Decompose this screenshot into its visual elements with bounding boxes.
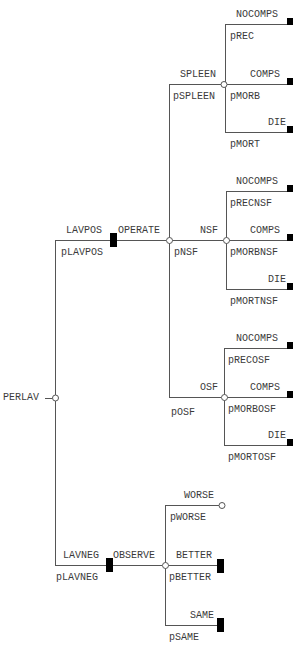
outcome-prob-label: pREC <box>230 31 254 42</box>
root-label: PERLAV <box>3 392 39 403</box>
perlav-chance-node-icon[interactable] <box>53 395 59 401</box>
spleen-prob-label: pSPLEEN <box>173 91 215 102</box>
worse-chance-node-icon[interactable] <box>219 503 225 509</box>
nsf-label: NSF <box>200 225 218 236</box>
osf-label: OSF <box>200 382 218 393</box>
outcome-prob-label: pMORTNSF <box>230 296 278 307</box>
lavneg-label: LAVNEG <box>63 550 99 561</box>
outcome-prob-label: pRECNSF <box>230 198 272 209</box>
lavneg-decision-node-icon[interactable] <box>106 558 113 572</box>
outcome-label: COMPS <box>250 225 280 236</box>
outcome-label: DIE <box>268 274 286 285</box>
operate-label: OPERATE <box>118 225 160 236</box>
lavneg-prob-label: pLAVNEG <box>56 572 98 583</box>
terminal-node-icon[interactable] <box>287 391 293 398</box>
lavpos-label: LAVPOS <box>66 225 102 236</box>
terminal-node-icon[interactable] <box>287 342 293 349</box>
lavpos-decision-node-icon[interactable] <box>110 233 117 247</box>
same-label: SAME <box>190 610 214 621</box>
outcome-prob-label: pMORTOSF <box>228 452 276 463</box>
terminal-node-icon[interactable] <box>287 18 293 25</box>
terminal-node-icon[interactable] <box>287 439 293 446</box>
osf-prob-label: pOSF <box>171 407 195 418</box>
outcome-label: NOCOMPS <box>236 9 278 20</box>
outcome-label: DIE <box>268 430 286 441</box>
nsf-prob-label: pNSF <box>174 247 198 258</box>
outcome-prob-label: pMORB <box>230 91 260 102</box>
worse-prob-label: pWORSE <box>170 512 206 523</box>
worse-label: WORSE <box>184 490 214 501</box>
outcome-label: COMPS <box>250 382 280 393</box>
outcome-label: NOCOMPS <box>236 176 278 187</box>
outcome-label: COMPS <box>250 69 280 80</box>
outcome-prob-label: pMORT <box>230 139 260 150</box>
terminal-node-icon[interactable] <box>287 78 293 85</box>
outcome-prob-label: pMORBOSF <box>228 404 276 415</box>
terminal-node-icon[interactable] <box>287 234 293 241</box>
spleen-label: SPLEEN <box>180 69 216 80</box>
outcome-prob-label: pRECOSF <box>228 355 270 366</box>
better-prob-label: pBETTER <box>169 572 211 583</box>
observe-label: OBSERVE <box>113 550 155 561</box>
osf-chance-node-icon[interactable] <box>222 395 228 401</box>
nsf-chance-node-icon[interactable] <box>224 238 230 244</box>
terminal-node-icon[interactable] <box>287 185 293 192</box>
observe-chance-node-icon[interactable] <box>163 563 169 569</box>
better-label: BETTER <box>176 550 212 561</box>
lavpos-prob-label: pLAVPOS <box>61 247 103 258</box>
outcome-label: NOCOMPS <box>236 333 278 344</box>
outcome-prob-label: pMORBNSF <box>230 247 278 258</box>
outcome-label: DIE <box>268 117 286 128</box>
spleen-chance-node-icon[interactable] <box>221 82 227 88</box>
better-terminal-node-icon[interactable] <box>217 559 224 573</box>
same-prob-label: pSAME <box>169 632 199 643</box>
terminal-node-icon[interactable] <box>287 283 293 290</box>
same-terminal-node-icon[interactable] <box>217 618 224 632</box>
operate-chance-node-icon[interactable] <box>167 238 173 244</box>
terminal-node-icon[interactable] <box>287 126 293 133</box>
